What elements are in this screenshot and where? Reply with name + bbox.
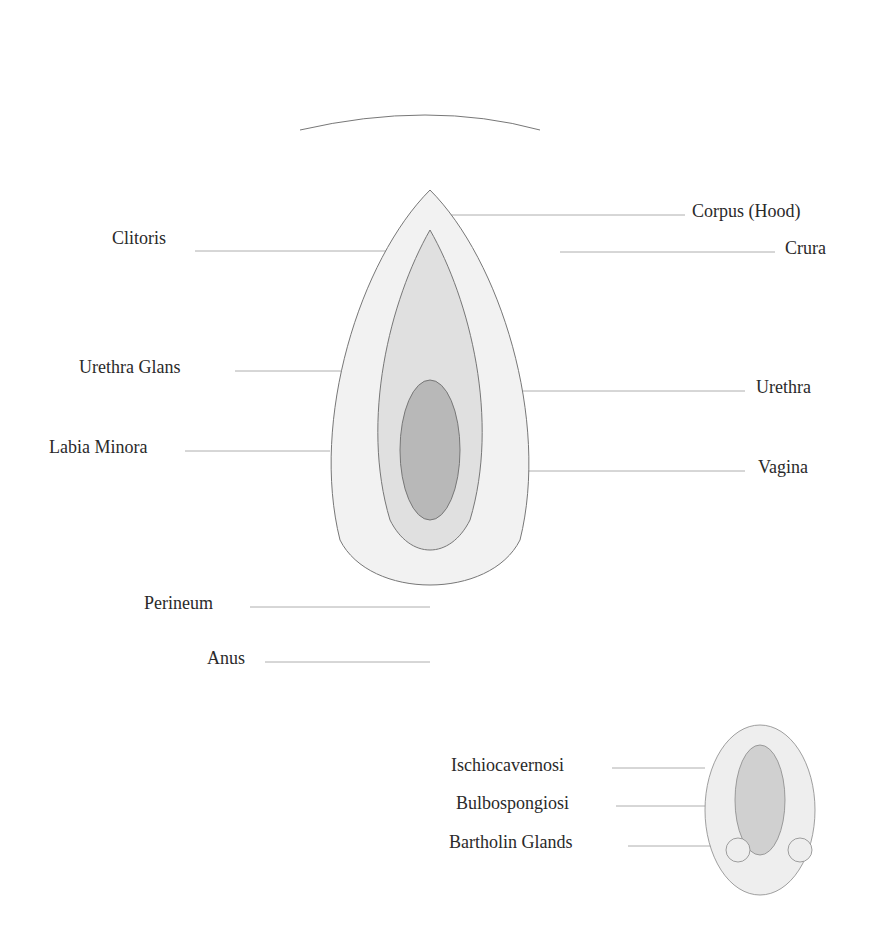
- label-labia-minora: Labia Minora: [49, 437, 147, 458]
- label-anus: Anus: [207, 648, 245, 669]
- label-bulbospongiosi: Bulbospongiosi: [456, 793, 569, 814]
- label-clitoris: Clitoris: [112, 228, 166, 249]
- anatomy-illustration: [0, 0, 885, 929]
- label-vagina: Vagina: [758, 457, 808, 478]
- label-perineum: Perineum: [144, 593, 213, 614]
- label-ischiocavernosi: Ischiocavernosi: [451, 755, 564, 776]
- vulva-outline: [300, 115, 540, 585]
- inset-illustration: [705, 725, 815, 895]
- label-corpus-hood: Corpus (Hood): [692, 201, 801, 222]
- label-bartholin-glands: Bartholin Glands: [449, 832, 573, 853]
- label-crura: Crura: [785, 238, 826, 259]
- label-urethra-glans: Urethra Glans: [79, 357, 180, 378]
- label-urethra: Urethra: [756, 377, 811, 398]
